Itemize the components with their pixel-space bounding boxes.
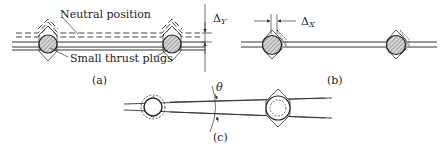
deflection-figure: Neutral position Small thrust plugs ΔY (… — [0, 0, 447, 152]
plug-b-right — [387, 30, 410, 59]
beam-dashed — [16, 19, 200, 37]
panel-b: ΔX (b) — [241, 14, 437, 87]
plug-b-left — [263, 30, 287, 59]
delta-x-dimension — [254, 14, 296, 34]
caption-a: (a) — [92, 74, 107, 87]
theta-label: θ — [216, 81, 223, 94]
plug-c-right — [266, 89, 290, 127]
panel-a: Neutral position Small thrust plugs ΔY (… — [12, 4, 227, 87]
caption-c: (c) — [213, 131, 228, 144]
panel-c: θ (c) — [124, 81, 332, 144]
delta-y-dimension — [202, 4, 212, 72]
small-thrust-plugs-label: Small thrust plugs — [70, 52, 173, 65]
delta-x-label: ΔX — [301, 15, 315, 29]
delta-y-label: ΔY — [213, 12, 227, 26]
neutral-position-label: Neutral position — [60, 8, 151, 21]
thrust-plug-left — [39, 26, 57, 61]
plug-c-left — [141, 95, 165, 119]
caption-b: (b) — [327, 74, 343, 87]
